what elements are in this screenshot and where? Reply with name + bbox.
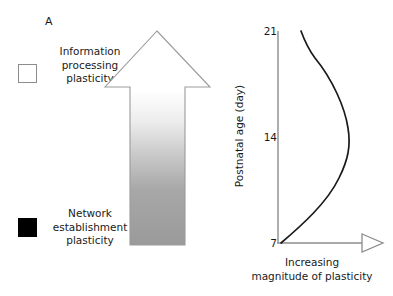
filled-square-swatch-icon (18, 218, 37, 237)
y-tick-label-21: 21 (253, 25, 277, 37)
panel-b: B 21 14 7 Postnatal age (day) Increasing… (215, 0, 393, 296)
y-tick-label-14: 14 (253, 131, 277, 143)
up-arrow-icon (95, 25, 215, 250)
figure-root: A Information processing plasticity Netw… (0, 0, 393, 296)
y-tick-label-7: 7 (253, 237, 277, 249)
y-axis-title: Postnatal age (day) (233, 76, 245, 196)
x-axis-title: Increasing magnitude of plasticity (237, 256, 387, 283)
panel-a-label: A (45, 15, 53, 28)
panel-a: A Information processing plasticity Netw… (0, 0, 215, 296)
x-axis-arrowhead-icon (362, 234, 383, 252)
plasticity-curve (281, 31, 349, 243)
open-square-swatch-icon (18, 64, 37, 83)
